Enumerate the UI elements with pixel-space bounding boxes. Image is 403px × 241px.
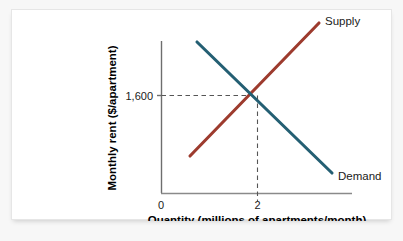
y-axis-title: Monthly rent ($/apartment) xyxy=(106,45,118,190)
supply-curve xyxy=(190,23,319,156)
demand-curve-label: Demand xyxy=(338,170,381,182)
demand-curve xyxy=(197,42,332,173)
x-tick-label-origin: 0 xyxy=(158,199,164,211)
figure-card: 1,600 0 2 Supply Demand Monthly rent ($/… xyxy=(11,9,392,220)
figure-root: 1,600 0 2 Supply Demand Monthly rent ($/… xyxy=(0,0,403,241)
x-axis-title: Quantity (millions of apartments/month) xyxy=(148,214,367,221)
supply-demand-chart: 1,600 0 2 Supply Demand Monthly rent ($/… xyxy=(12,10,393,221)
x-tick-label-2: 2 xyxy=(254,199,260,211)
y-tick-label-1600: 1,600 xyxy=(125,90,153,102)
supply-curve-label: Supply xyxy=(325,15,360,27)
